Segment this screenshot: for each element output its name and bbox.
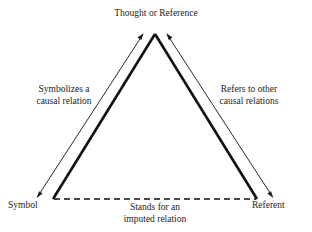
arrowhead-refers-up-icon [166,33,172,40]
edge-label-stands-for-imputed-relation: Stands for an imputed relation [96,202,214,226]
triangle-side-right [155,34,257,199]
semiotic-triangle-diagram: Thought or Reference Symbol Referent Sym… [0,0,312,232]
edge-label-refers-line2: causal relations [200,96,298,108]
arrow-line-symbolizes [38,35,143,196]
edge-label-stands-line2: imputed relation [96,214,214,226]
vertex-label-thought-or-reference: Thought or Reference [0,8,312,20]
edge-label-symbolizes-causal-relation: Symbolizes a causal relation [18,84,110,108]
edge-label-symbolizes-line2: causal relation [18,96,110,108]
triangle-graphic [0,0,312,232]
triangle-side-left [53,34,155,199]
vertex-label-symbol: Symbol [8,200,38,212]
arrowhead-symbolizes-up-icon [137,33,143,40]
arrow-line-refers [168,35,273,196]
edge-label-refers-causal-relations: Refers to other causal relations [200,84,298,108]
vertex-label-referent: Referent [252,200,285,212]
edge-label-refers-line1: Refers to other [200,84,298,96]
arrowhead-symbolizes-down-icon [37,191,43,198]
edge-label-stands-line1: Stands for an [96,202,214,214]
arrowhead-refers-down-icon [267,191,273,198]
edge-label-symbolizes-line1: Symbolizes a [18,84,110,96]
